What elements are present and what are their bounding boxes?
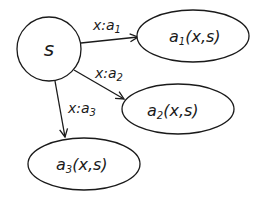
node-a1: a1(x,s) [137,10,249,62]
edge-label-a3: x:a3 [67,100,96,118]
node-a2-label: a2(x,s) [147,101,199,121]
edge-s-a1 [81,37,138,43]
node-s: s [17,17,81,81]
edge-s-a3 [55,81,65,137]
diagram-canvas: x:a1 x:a2 x:a3 s a1(x,s) a2(x,s) a3(x,s) [0,0,261,199]
node-a3: a3(x,s) [28,138,140,190]
node-a2: a2(x,s) [122,84,234,134]
node-a3-label: a3(x,s) [56,155,108,175]
node-a1-label: a1(x,s) [169,27,221,47]
edge-label-a2: x:a2 [94,65,123,83]
edge-label-a1: x:a1 [92,17,121,35]
node-s-label: s [44,37,54,61]
